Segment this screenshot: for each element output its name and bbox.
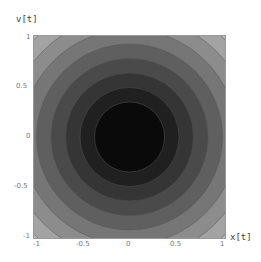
contour-rings: [34, 36, 225, 238]
x-tick-neg0.5: -0.5: [76, 240, 90, 248]
y-axis-label: v[t]: [16, 14, 38, 24]
y-tick-1: 1: [26, 33, 30, 41]
contour-plot-area: [33, 35, 226, 239]
y-tick-neg0.5: -0.5: [14, 182, 28, 190]
y-tick-0: 0: [26, 132, 30, 140]
y-tick-neg1: -1: [23, 232, 30, 240]
x-tick-1: 1: [220, 240, 224, 248]
x-axis-label: x[t]: [230, 232, 252, 242]
y-tick-0.5: 0.5: [16, 82, 27, 90]
x-tick-neg1: -1: [33, 240, 40, 248]
x-tick-0: 0: [126, 240, 130, 248]
x-tick-0.5: 0.5: [170, 240, 181, 248]
